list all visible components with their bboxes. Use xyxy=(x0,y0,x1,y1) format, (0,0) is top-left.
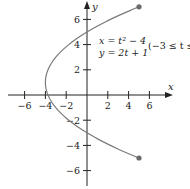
y-tick-label: −4 xyxy=(66,140,80,151)
x-tick-label: −6 xyxy=(18,100,32,111)
x-tick-label: −4 xyxy=(38,100,52,111)
curve xyxy=(45,7,139,158)
y-tick-label: 6 xyxy=(74,14,80,25)
y-tick-label: 2 xyxy=(74,64,80,75)
x-tick-label: 2 xyxy=(105,100,111,111)
parameter-domain: (−3 ≤ t ≤ 3) xyxy=(148,40,190,51)
x-tick-label: 4 xyxy=(126,100,132,111)
equation-x: x = t² − 4 xyxy=(99,35,146,46)
x-tick-label: 6 xyxy=(146,100,152,111)
equation-y: y = 2t + 1 xyxy=(98,47,148,58)
endpoint-marker xyxy=(136,155,141,160)
axes xyxy=(8,6,168,186)
y-tick-label: 4 xyxy=(74,39,80,50)
endpoint-marker xyxy=(136,4,141,9)
endpoints xyxy=(136,4,141,160)
equation-annotation: x = t² − 4 y = 2t + 1 (−3 ≤ t ≤ 3) xyxy=(98,35,190,58)
x-tick-label: −2 xyxy=(59,100,73,111)
parametric-curve-chart: x y −6−4−2246 642−2−4−6 x = t² − 4 y = 2… xyxy=(0,0,190,189)
x-ticks: −6−4−2246 xyxy=(18,91,153,111)
y-tick-label: −6 xyxy=(66,165,80,176)
y-axis-arrow-icon xyxy=(84,1,90,9)
x-axis-label: x xyxy=(168,81,174,92)
y-axis-label: y xyxy=(91,1,98,12)
x-axis-arrow-icon xyxy=(165,92,173,98)
